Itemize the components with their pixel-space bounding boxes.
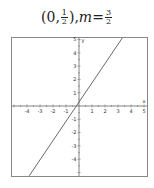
x-tick-label: -2 [51,108,56,114]
x-tick-label: 2 [103,108,106,114]
x-axis-label: x [143,98,146,104]
y-tick-label: 4 [73,50,76,56]
y-tick-label: -2 [72,129,77,135]
y-tick-label: 3 [73,63,76,69]
line-graph: -4-3-2-11234554321-1-2-3-4xy [0,0,154,188]
axes: -4-3-2-11234554321-1-2-3-4xy [12,36,147,176]
x-tick-label: -1 [64,108,69,114]
y-axis-label: y [82,37,85,44]
x-tick-label: -3 [38,108,43,114]
y-tick-label: -1 [72,116,77,122]
x-tick-label: 5 [142,108,145,114]
x-tick-label: 1 [90,108,93,114]
y-tick-label: 5 [73,36,76,42]
y-tick-label: 1 [73,90,76,96]
plot-frame [12,38,148,177]
y-tick-label: 2 [73,76,76,82]
y-tick-label: -4 [72,156,77,162]
x-tick-label: 4 [129,108,132,114]
x-tick-label: -4 [25,108,30,114]
y-tick-label: -3 [72,143,77,149]
x-tick-label: 3 [116,108,119,114]
